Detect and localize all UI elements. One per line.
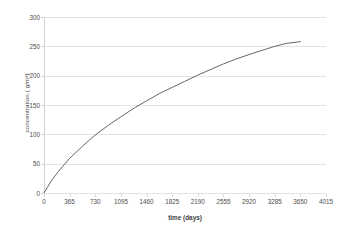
y-tick-mark: [41, 76, 44, 77]
x-tick-mark: [300, 194, 301, 197]
y-tick-label: 300: [18, 14, 40, 21]
y-tick-mark: [41, 17, 44, 18]
chart-container: concentration ( g/m³) 050100150200250300…: [0, 0, 353, 236]
y-tick-label: 100: [18, 131, 40, 138]
x-tick-mark: [326, 194, 327, 197]
x-axis-tick-marks: [44, 194, 326, 197]
y-tick-label: 250: [18, 43, 40, 50]
y-tick-mark: [41, 134, 44, 135]
x-tick-mark: [44, 194, 45, 197]
x-tick-mark: [172, 194, 173, 197]
y-tick-label: 150: [18, 102, 40, 109]
gridline-y: [44, 193, 326, 194]
y-tick-label: 200: [18, 72, 40, 79]
x-axis-title: time (days): [44, 214, 326, 221]
plot-area: [44, 17, 326, 193]
x-tick-mark: [95, 194, 96, 197]
y-tick-mark: [41, 105, 44, 106]
y-tick-label: 0: [18, 190, 40, 197]
x-axis-tick-labels: 0365730109514601825219025552920328536504…: [44, 198, 326, 208]
x-tick-label: 4015: [311, 198, 341, 206]
y-tick-mark: [41, 164, 44, 165]
x-tick-mark: [275, 194, 276, 197]
x-tick-mark: [147, 194, 148, 197]
x-tick-mark: [121, 194, 122, 197]
y-tick-mark: [41, 46, 44, 47]
y-tick-label: 50: [18, 160, 40, 167]
x-tick-mark: [70, 194, 71, 197]
series-line-concentration: [44, 17, 326, 193]
x-tick-mark: [198, 194, 199, 197]
y-tick-mark: [41, 193, 44, 194]
x-tick-mark: [223, 194, 224, 197]
x-tick-mark: [249, 194, 250, 197]
